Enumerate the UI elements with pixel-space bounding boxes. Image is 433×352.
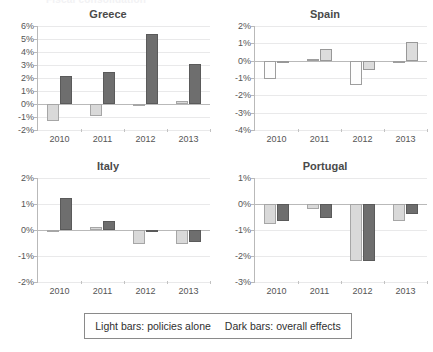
bar: [264, 204, 276, 224]
y-axis-tick: [34, 230, 38, 231]
x-axis-tick: [427, 129, 428, 132]
bar: [146, 230, 158, 232]
gridline: [38, 39, 210, 40]
y-axis-tick-label: -1%: [235, 73, 251, 83]
y-axis-tick: [251, 230, 255, 231]
chart-panel-spain: Spain 2%1%0%-1%-2%-3%-4% 201020112012201…: [217, 6, 433, 156]
bar: [103, 72, 115, 104]
y-axis-tick-label: 2%: [21, 73, 34, 83]
x-axis-labels: 2010201120122013: [38, 134, 210, 148]
y-axis-labels: 2%1%0%-1%-2%-3%-4%: [217, 26, 251, 130]
plot-area: [255, 26, 427, 130]
x-axis-tick: [124, 129, 125, 132]
y-axis-tick: [34, 178, 38, 179]
gridline: [38, 256, 210, 257]
y-axis-labels: 1%0%-1%-2%-3%: [217, 178, 251, 282]
y-axis-tick-label: 0%: [21, 99, 34, 109]
x-axis-tick: [210, 129, 211, 132]
x-axis-tick: [298, 281, 299, 284]
y-axis-tick: [34, 282, 38, 283]
panel-grid: Greece 6%5%4%3%2%1%0%-1%-2% 201020112012…: [0, 6, 433, 306]
y-axis-tick: [251, 256, 255, 257]
clipped-figure-title: Fiscal consolidation: [46, 0, 146, 5]
y-axis-tick-label: 1%: [21, 199, 34, 209]
gridline: [38, 26, 210, 27]
gridline: [38, 65, 210, 66]
bar: [60, 76, 72, 104]
y-axis-tick: [34, 52, 38, 53]
x-axis-tick: [81, 281, 82, 284]
x-axis-tick: [210, 281, 211, 284]
x-axis-tick: [81, 129, 82, 132]
x-axis-tick-label: 2012: [135, 286, 155, 296]
x-axis-ticks: [38, 281, 210, 282]
y-axis-tick: [34, 39, 38, 40]
y-axis-tick-label: -1%: [18, 251, 34, 261]
y-axis-tick: [34, 104, 38, 105]
gridline: [255, 256, 427, 257]
x-axis-tick-label: 2013: [178, 286, 198, 296]
legend-dark-label: Dark bars: overall effects: [225, 320, 341, 332]
x-axis-labels: 2010201120122013: [255, 134, 427, 148]
x-axis-tick-label: 2010: [266, 286, 286, 296]
x-axis-tick-label: 2010: [49, 286, 69, 296]
y-axis-tick-label: -1%: [18, 112, 34, 122]
y-axis-tick-label: 3%: [21, 60, 34, 70]
bar: [320, 49, 332, 60]
bar: [307, 204, 319, 209]
x-axis-tick: [341, 129, 342, 132]
gridline: [255, 43, 427, 44]
x-axis-tick-label: 2013: [395, 134, 415, 144]
x-axis-tick-label: 2012: [352, 286, 372, 296]
y-axis-tick-label: 1%: [238, 173, 251, 183]
y-axis-tick-label: -4%: [235, 125, 251, 135]
y-axis-tick: [34, 91, 38, 92]
y-axis-tick: [34, 78, 38, 79]
x-axis-tick: [341, 281, 342, 284]
y-axis-tick-label: 0%: [238, 199, 251, 209]
y-axis-tick-label: 0%: [238, 56, 251, 66]
gridline: [38, 52, 210, 53]
bar: [393, 204, 405, 221]
y-axis-tick-label: -2%: [235, 90, 251, 100]
gridline: [38, 178, 210, 179]
y-axis-tick-label: -3%: [235, 277, 251, 287]
gridline: [255, 95, 427, 96]
bar: [307, 59, 319, 61]
bar: [277, 204, 289, 221]
y-axis-tick: [251, 61, 255, 62]
plot-area: [38, 178, 210, 282]
bar: [176, 230, 188, 244]
x-axis-labels: 2010201120122013: [255, 286, 427, 300]
bar: [350, 204, 362, 261]
y-axis-tick-label: 1%: [238, 38, 251, 48]
gridline: [255, 78, 427, 79]
y-axis-tick: [34, 256, 38, 257]
y-axis-tick-label: 0%: [21, 225, 34, 235]
figure-root: Fiscal consolidation Greece 6%5%4%3%2%1%…: [0, 0, 433, 352]
chart-panel-italy: Italy 2%1%0%-1%-2% 2010201120122013: [0, 158, 216, 308]
x-axis-tick-label: 2011: [93, 134, 112, 144]
panel-title: Greece: [0, 8, 216, 20]
y-axis-tick: [34, 26, 38, 27]
y-axis-tick: [251, 113, 255, 114]
x-axis-tick-label: 2013: [178, 134, 198, 144]
bar: [47, 230, 59, 232]
y-axis-tick-label: -2%: [235, 251, 251, 261]
x-axis-tick: [298, 129, 299, 132]
gridline: [255, 113, 427, 114]
x-axis-tick-label: 2011: [310, 286, 329, 296]
chart-panel-greece: Greece 6%5%4%3%2%1%0%-1%-2% 201020112012…: [0, 6, 216, 156]
y-axis-tick: [251, 282, 255, 283]
y-axis-tick-label: 2%: [21, 173, 34, 183]
bar: [176, 101, 188, 104]
x-axis-tick: [384, 281, 385, 284]
x-axis-labels: 2010201120122013: [38, 286, 210, 300]
bar: [60, 198, 72, 231]
x-axis-tick-label: 2011: [310, 134, 329, 144]
y-axis-tick: [34, 117, 38, 118]
bar: [277, 61, 289, 63]
y-axis-tick: [251, 178, 255, 179]
bar: [320, 204, 332, 218]
bar: [103, 221, 115, 230]
